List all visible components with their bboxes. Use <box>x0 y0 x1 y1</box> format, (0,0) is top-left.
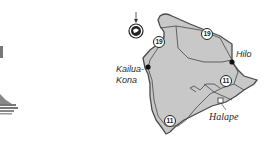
island-map <box>0 0 276 154</box>
halape-marker-icon <box>218 98 223 103</box>
route-shield-19-ne: 19 <box>201 28 213 40</box>
label-hilo: Hilo <box>236 50 252 59</box>
route-shield-11-south: 11 <box>164 115 176 127</box>
label-kona: Kona <box>116 76 137 85</box>
label-halape: Halape <box>209 112 238 121</box>
decorative-graphic-icon <box>0 46 18 115</box>
route-shield-19-nw: 19 <box>153 36 165 48</box>
label-kailua: Kailua- <box>116 65 144 74</box>
island-landmass <box>143 14 257 134</box>
kailua-kona-dot <box>145 64 150 69</box>
route-shield-11-east: 11 <box>220 75 232 87</box>
north-arrow-compass-icon <box>129 12 143 38</box>
hilo-dot <box>229 59 234 64</box>
